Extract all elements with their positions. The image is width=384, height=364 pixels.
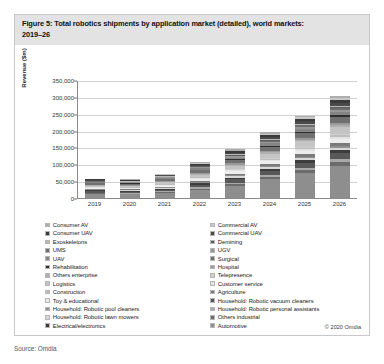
legend-item[interactable]: Household: Robotic personal assistants [210,305,365,313]
legend-item[interactable]: Electrical/electronics [45,322,200,330]
bar-column[interactable] [152,81,178,198]
legend-swatch-icon [45,248,50,253]
stacked-bar[interactable] [120,179,140,198]
legend-item[interactable]: Rehabilitation [45,263,200,271]
legend-item[interactable]: Consumer UAV [45,229,200,237]
legend-item-label: Demining [218,239,242,245]
bar-segment[interactable] [225,186,245,198]
bar-column[interactable] [292,81,318,198]
legend-item-label: UGV [218,247,231,253]
legend-item-label: Household: Robotic vacuum cleaners [218,298,314,304]
legend-item[interactable]: Demining [210,238,365,246]
legend-item[interactable]: UGV [210,246,365,254]
figure-title-line-2: 2019–26 [22,30,362,41]
legend-swatch-icon [210,223,215,228]
legend-swatch-icon [45,323,50,328]
legend-item-label: Exoskeletons [53,239,87,245]
legend-item[interactable]: Telepresence [210,271,365,279]
legend-swatch-icon [210,231,215,236]
bar-column[interactable] [327,81,353,198]
bar-segment[interactable] [85,194,105,198]
stacked-bar[interactable] [85,179,105,198]
chart-plot-wrapper: Revenue ($m) 050,000100,000150,000200,00… [15,45,369,205]
stacked-bar[interactable] [260,132,280,198]
stacked-bar[interactable] [190,162,210,198]
x-axis-tick-label: 2024 [257,201,283,207]
legend-swatch-icon [210,281,215,286]
legend-swatch-icon [45,240,50,245]
bar-series-group [78,81,357,198]
legend-item[interactable]: Household: Robotic vacuum cleaners [210,297,365,305]
legend-item[interactable]: Others industrial [210,313,365,321]
legend-swatch-icon [210,290,215,295]
legend-item-label: Customer service [218,281,263,287]
source-line: Source: Omdia [14,345,57,352]
x-axis-tick-label: 2025 [292,201,318,207]
legend-item[interactable]: Surgical [210,255,365,263]
bar-segment[interactable] [155,193,175,198]
legend-item[interactable]: UMS [45,246,200,254]
legend-swatch-icon [45,256,50,261]
stacked-bar[interactable] [155,174,175,198]
legend-item[interactable]: Logistics [45,280,200,288]
stacked-bar[interactable] [295,116,315,198]
y-axis-tick-label: 300,000 [52,95,74,101]
legend-item-label: Household: Robotic lawn mowers [53,314,139,320]
chart-legend: Consumer AVConsumer UAVExoskeletonsUMSUA… [45,221,365,330]
y-axis-title: Revenue ($m) [21,33,27,103]
legend-item-label: Rehabilitation [53,264,88,270]
legend-item-label: Construction [53,289,85,295]
bar-column[interactable] [257,81,283,198]
legend-item[interactable]: Agriculture [210,288,365,296]
legend-swatch-icon [210,248,215,253]
legend-item[interactable]: Exoskeletons [45,238,200,246]
legend-item[interactable]: Customer service [210,280,365,288]
legend-swatch-icon [210,240,215,245]
x-axis-tick-label: 2019 [82,201,108,207]
legend-item[interactable]: Commercial AV [210,221,365,229]
y-axis-tick-label: 250,000 [52,112,74,118]
legend-swatch-icon [210,273,215,278]
bar-segment[interactable] [260,179,280,198]
bar-segment[interactable] [120,194,140,198]
y-axis-tick-label: 50,000 [56,179,74,185]
bar-column[interactable] [82,81,108,198]
bar-segment[interactable] [295,173,315,198]
x-axis-tick-label: 2022 [187,201,213,207]
legend-swatch-icon [45,223,50,228]
legend-item[interactable]: UAV [45,255,200,263]
bar-column[interactable] [187,81,213,198]
legend-item-label: Agriculture [218,289,246,295]
legend-swatch-icon [210,307,215,312]
legend-swatch-icon [210,265,215,270]
legend-item-label: Electrical/electronics [53,323,106,329]
legend-item[interactable]: Household: Robotic pool cleaners [45,305,200,313]
x-axis-tick-label: 2020 [117,201,143,207]
legend-item[interactable]: Consumer AV [45,221,200,229]
legend-item[interactable]: Others enterprise [45,271,200,279]
bar-column[interactable] [117,81,143,198]
legend-swatch-icon [45,315,50,320]
legend-item[interactable]: Household: Robotic lawn mowers [45,313,200,321]
legend-swatch-icon [45,290,50,295]
legend-item-label: Others enterprise [53,272,98,278]
figure-container: Figure 5: Total robotics shipments by ap… [14,14,370,336]
legend-item-label: Hospital [218,264,239,270]
legend-item[interactable]: Commercial UAV [210,229,365,237]
legend-item-label: Surgical [218,256,239,262]
legend-item[interactable]: Construction [45,288,200,296]
bar-column[interactable] [222,81,248,198]
x-axis-tick-label: 2021 [152,201,178,207]
legend-item[interactable]: Toy & educational [45,297,200,305]
y-axis-tick-label: 200,000 [52,129,74,135]
legend-item-label: Commercial AV [218,222,258,228]
stacked-bar[interactable] [225,149,245,198]
legend-item-label: Toy & educational [53,298,99,304]
legend-item[interactable]: Hospital [210,263,365,271]
bar-segment[interactable] [190,190,210,198]
figure-title-line-1: Figure 5: Total robotics shipments by ap… [22,19,362,30]
bar-segment[interactable] [330,166,350,198]
stacked-bar[interactable] [330,96,350,198]
figure-title: Figure 5: Total robotics shipments by ap… [15,15,369,45]
legend-item-label: Household: Robotic pool cleaners [53,306,140,312]
